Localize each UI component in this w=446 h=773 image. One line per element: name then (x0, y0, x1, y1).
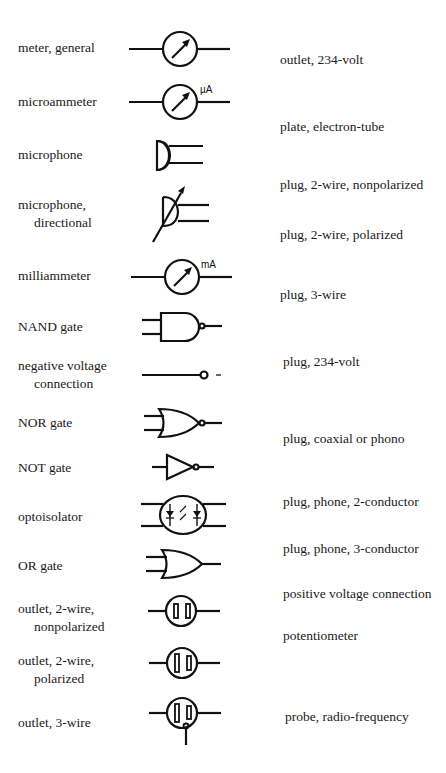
outlet-2wire-polarized-icon (149, 648, 220, 678)
optoisolator-icon (141, 496, 226, 534)
meter-general-icon (129, 32, 230, 66)
schematic-symbols: µA mA (0, 0, 446, 773)
svg-text:µA: µA (200, 84, 213, 95)
milliammeter-icon: mA (131, 259, 232, 294)
nand-gate-icon (142, 313, 222, 341)
nor-gate-icon (144, 409, 222, 437)
microphone-directional-icon (153, 186, 209, 242)
outlet-3wire-icon (149, 698, 221, 745)
outlet-2wire-nonpolarized-icon (148, 596, 220, 626)
microammeter-icon: µA (129, 84, 230, 119)
svg-text:mA: mA (201, 259, 216, 270)
or-gate-icon (146, 550, 221, 578)
negative-voltage-connection-icon (142, 372, 221, 379)
not-gate-icon (152, 455, 214, 479)
microphone-icon (157, 141, 203, 170)
